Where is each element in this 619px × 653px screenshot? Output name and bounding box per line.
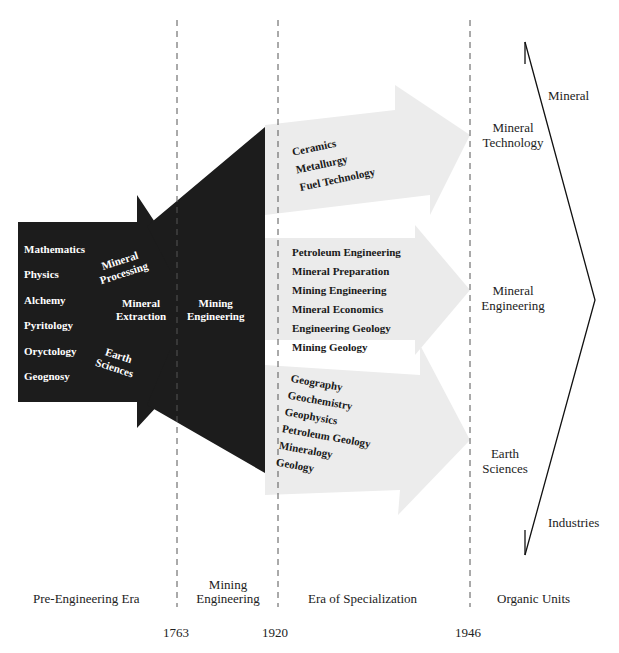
subject-oryctology: Oryctology: [24, 345, 85, 370]
item-mining-geology: Mining Geology: [292, 341, 401, 353]
pre-engineering-subjects: Mathematics Physics Alchemy Pyritology O…: [24, 243, 85, 382]
bracket-label-mineral: Mineral: [548, 88, 589, 104]
subject-mathematics: Mathematics: [24, 243, 85, 268]
label-mining-engineering-block: Mining Engineering: [187, 297, 244, 323]
arrow-items-earth-sciences: Geography Geochemistry Geophysics Petrol…: [275, 372, 380, 483]
item-petroleum-engineering: Petroleum Engineering: [292, 246, 401, 265]
era-organic-units: Organic Units: [497, 592, 570, 606]
era-mining-engineering-text: Mining Engineering: [186, 578, 270, 606]
year-1763: 1763: [163, 625, 189, 641]
era-specialization: Era of Specialization: [308, 592, 417, 606]
outcome-mineral-technology: Mineral Technology: [477, 120, 549, 150]
item-mineral-economics: Mineral Economics: [292, 303, 401, 322]
era-mining-engineering: Mining Engineering: [186, 578, 270, 606]
outcome-mineral-engineering: Mineral Engineering: [475, 283, 551, 313]
subject-pyritology: Pyritology: [24, 319, 85, 345]
item-mineral-preparation: Mineral Preparation: [292, 265, 401, 284]
arrow-items-mineral-engineering: Petroleum Engineering Mineral Preparatio…: [292, 246, 401, 353]
year-1920: 1920: [262, 625, 288, 641]
subject-geognosy: Geognosy: [24, 370, 85, 382]
item-engineering-geology: Engineering Geology: [292, 322, 401, 341]
bracket-label-industries: Industries: [548, 515, 599, 531]
item-mining-engineering: Mining Engineering: [292, 284, 401, 303]
outcome-earth-sciences: Earth Sciences: [475, 446, 535, 476]
subject-alchemy: Alchemy: [24, 294, 85, 319]
subject-physics: Physics: [24, 268, 85, 294]
label-mineral-extraction: Mineral Extraction: [116, 297, 166, 323]
era-pre-engineering: Pre-Engineering Era: [33, 592, 139, 606]
year-1946: 1946: [455, 625, 481, 641]
